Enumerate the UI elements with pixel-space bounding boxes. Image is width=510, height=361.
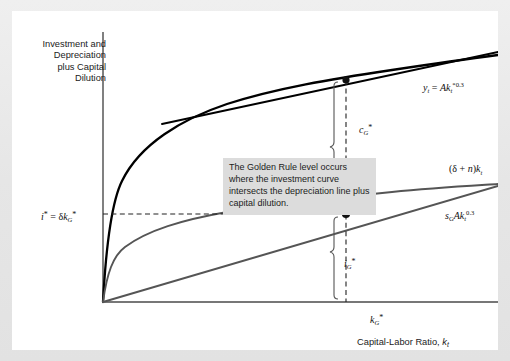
x-axis-title-var-sub: t [447,341,449,348]
label-sg-k-sub: t [464,215,466,222]
k-star-axis-label: kG* [370,313,383,327]
label-sg-exp: 0.3 [466,209,474,216]
figure-root: Investment and Depreciation plus Capital… [0,0,510,361]
label-dn-plus: + [457,163,468,174]
label-y-exp: *0.3 [452,81,464,88]
x-axis-title-text: Capital-Labor Ratio, [357,337,442,347]
consumption-brace-label: cG* [359,123,372,137]
investment-curve-label: sGAkt0.3 [445,209,474,223]
production-point-marker [342,76,349,83]
label-y-k-sub: t [451,87,453,94]
label-y-eq: = [429,82,440,93]
plot-area: Investment and Depreciation plus Capital… [12,11,498,350]
investment-brace-label: iG* [344,257,356,271]
label-kg-star: * [379,313,383,322]
callout-annotation: The Golden Rule level occurs where the i… [223,158,376,215]
label-dn-k-sub: t [481,169,483,176]
label-i-eq: = [48,211,59,222]
label-cg-star: * [368,123,372,132]
x-axis-title: Capital-Labor Ratio, kt [357,337,449,350]
investment-brace [330,217,338,299]
i-star-axis-label: i* = δkG* [41,210,76,224]
label-ig-star: * [352,257,356,266]
depreciation-line-label: (δ + n)kt [449,163,482,177]
label-i-k-star: * [72,210,76,219]
y-axis-title: Investment and Depreciation plus Capital… [30,39,106,84]
production-function-label: yt = Akt*0.3 [423,81,464,95]
